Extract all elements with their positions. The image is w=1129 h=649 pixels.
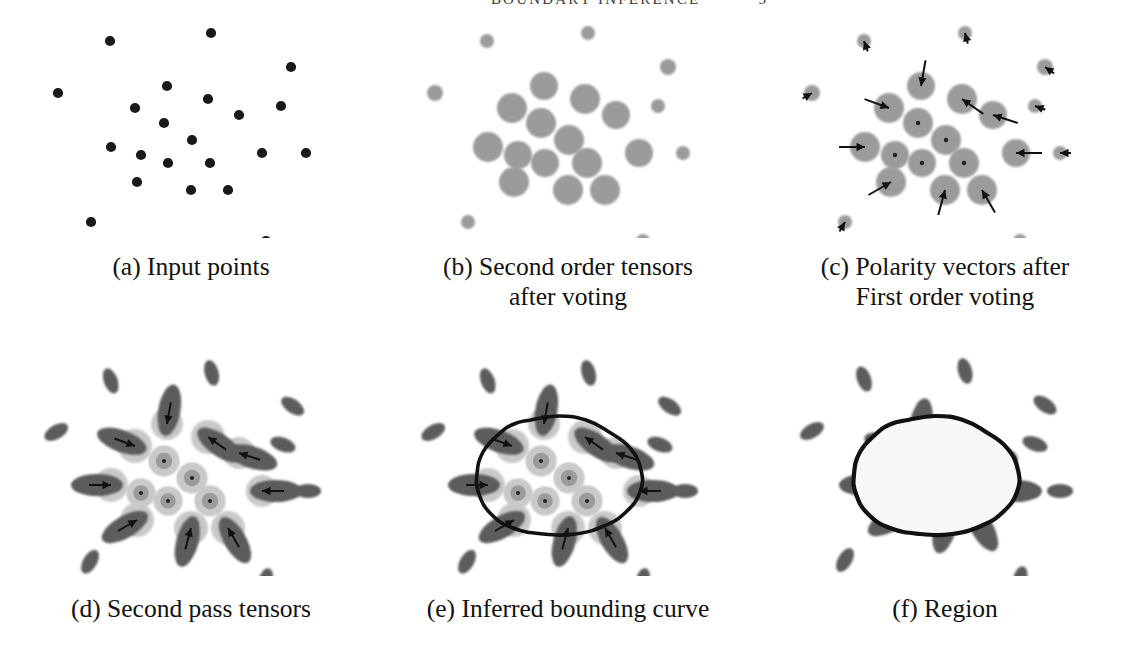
input-point [261, 236, 271, 238]
ball-tensor [461, 215, 475, 229]
tensor-center-dot [516, 491, 520, 495]
input-point [286, 62, 296, 72]
caption-d-line-1: (d) Second pass tensors [6, 594, 376, 624]
caption-e: (e) Inferred bounding curve [383, 594, 753, 624]
caption-b-line-2: after voting [383, 282, 753, 312]
input-point [132, 177, 142, 187]
ball-tensor [1013, 234, 1027, 238]
input-point [187, 135, 197, 145]
tensor-center-dot [893, 153, 897, 157]
ball-tensor [651, 99, 665, 113]
stick-tensor [201, 359, 221, 388]
caption-b-line-1: (b) Second order tensors [383, 252, 753, 282]
stick-tensor [645, 434, 674, 456]
stick-tensor [477, 366, 499, 395]
ball-tensor [570, 84, 600, 114]
caption-a: (a) Input points [6, 252, 376, 282]
tensor-center-dot [543, 499, 547, 503]
panel-c-polarity-vectors [760, 10, 1129, 238]
input-point [130, 103, 140, 113]
stick-tensor [672, 484, 698, 498]
ball-tensor [602, 101, 630, 129]
ball-tensor [660, 59, 676, 75]
stick-tensor [454, 547, 479, 576]
ball-tensor [473, 132, 503, 162]
stick-tensor [632, 567, 652, 576]
ball-tensor [530, 72, 558, 100]
stick-tensor [1020, 433, 1049, 455]
caption-c-line-2: First order voting [760, 282, 1129, 312]
input-point [203, 94, 213, 104]
ball-tensor [572, 148, 602, 178]
ball-tensor [499, 167, 529, 197]
input-point [234, 110, 244, 120]
ball-tensor [553, 175, 583, 205]
input-point [186, 185, 196, 195]
ball-tensor [480, 34, 494, 48]
caption-f-line-1: (f) Region [760, 594, 1129, 624]
inferred-region [853, 416, 1019, 535]
ball-tensor [581, 26, 595, 40]
caption-f: (f) Region [760, 594, 1129, 624]
input-point [159, 118, 169, 128]
panel-e-inferred-bounding-curve [383, 348, 753, 576]
stick-tensor [419, 419, 449, 444]
input-point [136, 150, 146, 160]
caption-d: (d) Second pass tensors [6, 594, 376, 624]
ball-tensor [427, 85, 443, 101]
tensor-center-dot [166, 499, 170, 503]
stick-tensor [100, 366, 122, 395]
running-head: BOUNDARY INFERENCE5 [0, 0, 1129, 5]
caption-c: (c) Polarity vectors after First order v… [760, 252, 1129, 312]
ball-tensor [676, 146, 690, 160]
tensor-center-dot [585, 499, 589, 503]
stick-tensor [797, 418, 827, 443]
caption-a-line-1: (a) Input points [6, 252, 376, 282]
input-point [86, 217, 96, 227]
panel-d-canvas [6, 348, 376, 576]
tensor-center-dot [208, 499, 212, 503]
stick-tensor [1047, 484, 1073, 498]
panel-e-canvas [383, 348, 753, 576]
input-point [257, 148, 267, 158]
stick-tensor [278, 393, 307, 419]
ball-tensor [497, 93, 527, 123]
input-point [301, 148, 311, 158]
stick-tensor [853, 364, 875, 393]
tensor-center-dot [916, 121, 920, 125]
tensor-center-dot [567, 476, 571, 480]
tensor-center-dot [539, 459, 543, 463]
stick-tensor [832, 545, 857, 575]
input-point [206, 28, 216, 38]
ball-tensor [526, 108, 556, 138]
ball-tensor [531, 149, 559, 177]
stick-tensor [77, 547, 102, 576]
tensor-center-dot [920, 161, 924, 165]
input-point [53, 88, 63, 98]
panel-f-canvas [760, 348, 1129, 576]
input-point [223, 185, 233, 195]
caption-b: (b) Second order tensors after voting [383, 252, 753, 312]
input-point [105, 36, 115, 46]
tensor-center-dot [962, 161, 966, 165]
stick-tensor [268, 434, 297, 456]
tensor-center-dot [162, 459, 166, 463]
tensor-center-dot [944, 138, 948, 142]
stick-tensor [255, 567, 275, 576]
tensor-center-dot [190, 476, 194, 480]
stick-tensor [955, 357, 975, 386]
running-head-page-number: 5 [758, 0, 768, 5]
input-point [276, 101, 286, 111]
panel-f-region [760, 348, 1129, 576]
ball-tensor [590, 175, 620, 205]
input-point [162, 81, 172, 91]
stick-tensor [1030, 392, 1059, 418]
stick-tensor [655, 393, 684, 419]
ball-tensor [636, 234, 650, 238]
tensor-center-dot [139, 491, 143, 495]
input-point [205, 158, 215, 168]
stick-tensor [578, 359, 598, 388]
panel-a-canvas [6, 10, 376, 238]
ball-tensor [504, 141, 532, 169]
panel-b-canvas [383, 10, 753, 238]
